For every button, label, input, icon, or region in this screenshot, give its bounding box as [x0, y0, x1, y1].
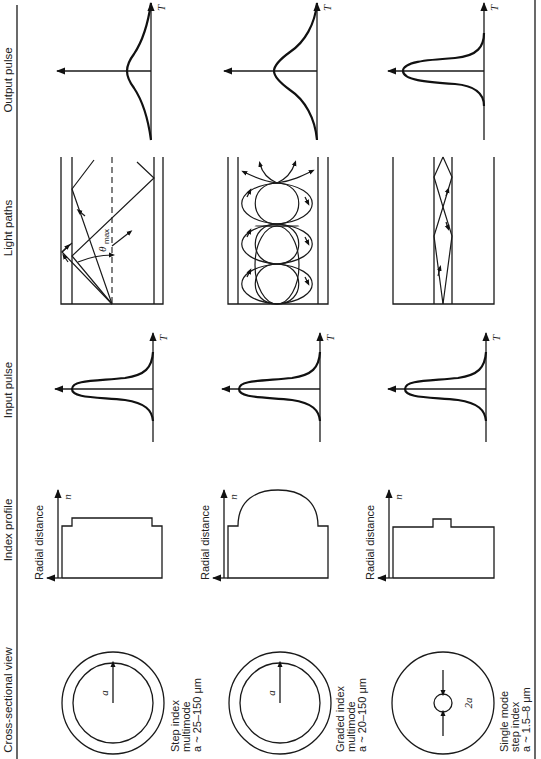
input-pulse-graded-index: T: [222, 333, 336, 442]
output-pulse-graded-index: T: [224, 3, 333, 140]
header-light-paths: Light paths: [2, 200, 14, 257]
fiber-label-single-mode: Single mode step index a ~ 1.5–8 μm: [498, 687, 532, 752]
svg-text:a ~ 25–150 μm: a ~ 25–150 μm: [191, 678, 203, 752]
svg-text:n: n: [227, 494, 239, 500]
svg-text:Cross-sectional view: Cross-sectional view: [2, 647, 14, 753]
svg-text:θ: θ: [96, 246, 108, 252]
svg-text:T: T: [490, 334, 502, 341]
index-profile-step-index: n Radial distance: [33, 490, 162, 580]
svg-text:n: n: [61, 494, 73, 500]
output-pulse-step-index: T: [57, 3, 167, 140]
index-profile-graded-index: n Radial distance: [199, 490, 328, 580]
light-paths-step-index: θ max: [61, 157, 163, 304]
svg-text:2a: 2a: [462, 697, 474, 709]
svg-text:a ~ 20–150 μm: a ~ 20–150 μm: [356, 678, 368, 752]
svg-text:T: T: [155, 4, 167, 11]
svg-text:n: n: [392, 494, 404, 500]
svg-text:a ~ 1.5–8 μm: a ~ 1.5–8 μm: [520, 687, 532, 752]
input-pulse-single-mode: T: [388, 333, 502, 442]
svg-text:T: T: [157, 334, 169, 341]
svg-text:Radial distance: Radial distance: [364, 505, 376, 580]
svg-text:Light paths: Light paths: [2, 200, 14, 257]
fiber-label-step-index: Step index multimode a ~ 25–150 μm: [169, 678, 203, 752]
svg-text:T: T: [488, 4, 500, 11]
header-cross-section: Cross-sectional view: [2, 647, 14, 753]
cross-section-step-index: a Step index multimode a ~ 25–150 μm: [62, 652, 203, 754]
svg-text:Index profile: Index profile: [2, 499, 14, 562]
index-profile-single-mode: n Radial distance: [364, 490, 494, 580]
svg-text:Input pulse: Input pulse: [2, 362, 14, 418]
svg-text:T: T: [321, 4, 333, 11]
cross-section-single-mode: 2a Single mode step index a ~ 1.5–8 μm: [392, 652, 532, 754]
header-index-profile: Index profile: [2, 499, 14, 562]
svg-text:max: max: [102, 229, 111, 244]
svg-text:Radial distance: Radial distance: [199, 505, 211, 580]
header-output-pulse: Output pulse: [2, 47, 14, 112]
svg-text:a: a: [265, 690, 277, 696]
svg-text:a: a: [98, 690, 110, 696]
cross-section-graded-index: a Graded index multimode a ~ 20–150 μm: [229, 652, 368, 754]
theta-max-label: θ max: [96, 229, 111, 252]
svg-text:T: T: [324, 334, 336, 341]
svg-text:Radial distance: Radial distance: [33, 505, 45, 580]
header-input-pulse: Input pulse: [2, 362, 14, 418]
fiber-label-graded-index: Graded index multimode a ~ 20–150 μm: [334, 678, 368, 752]
input-pulse-step-index: T: [55, 333, 169, 442]
light-paths-graded-index: [228, 157, 328, 304]
svg-text:Output pulse: Output pulse: [2, 47, 14, 112]
output-pulse-single-mode: T: [388, 3, 500, 140]
light-paths-single-mode: [393, 157, 494, 304]
fiber-types-diagram: Output pulse Light paths Input pulse Ind…: [0, 0, 541, 759]
